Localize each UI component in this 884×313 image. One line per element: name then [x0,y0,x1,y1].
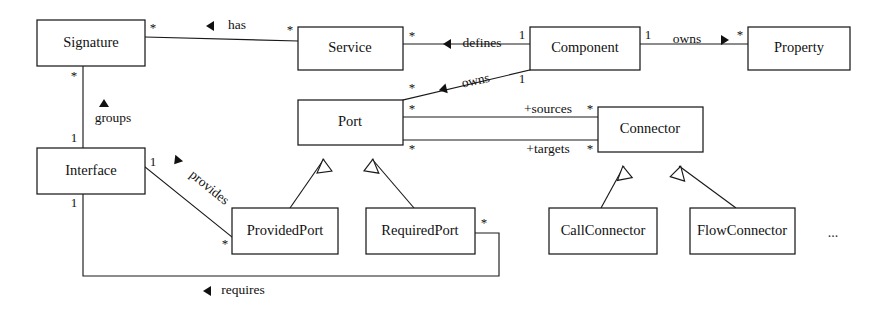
association-label-groups: groups [95,110,132,125]
multiplicity-defines-from: * [409,28,416,43]
class-box-property[interactable]: Property [748,27,850,70]
generalization-line-requiredport-port [372,159,414,208]
multiplicity-sources-to: * [587,101,594,116]
multiplicity-provides-from: 1 [150,154,157,169]
navigation-triangle-owns-port [438,84,448,96]
association-label-has: has [228,17,246,32]
class-label-connector: Connector [620,120,681,136]
class-box-port[interactable]: Port [298,100,403,145]
multiplicity-defines-to: 1 [519,27,526,42]
class-box-component[interactable]: Component [530,27,640,70]
class-box-signature[interactable]: Signature [37,20,145,66]
class-label-requiredport: RequiredPort [381,222,458,238]
diagram-canvas: Signature Service Component Property Por… [0,0,884,313]
association-label-owns-property: owns [673,31,702,46]
class-label-providedport: ProvidedPort [247,222,324,238]
association-label-targets: +targets [526,141,569,156]
class-label-service: Service [328,39,371,55]
multiplicity-owns-port-to: * [409,80,416,95]
multiplicity-targets-from: * [409,141,416,156]
generalization-line-flowconnector-connector [679,166,736,208]
association-label-owns-port: owns [460,70,491,91]
class-box-callconnector[interactable]: CallConnector [549,208,657,254]
multiplicity-targets-to: * [587,141,594,156]
class-box-flowconnector[interactable]: FlowConnector [690,208,795,254]
class-label-signature: Signature [63,34,119,50]
multiplicity-owns-property-from: 1 [645,27,652,42]
association-label-provides: provides [187,167,233,208]
class-box-connector[interactable]: Connector [598,107,703,152]
multiplicity-has-from: * [150,20,157,35]
class-label-interface: Interface [65,162,117,178]
multiplicity-groups-to: * [71,68,78,83]
class-label-component: Component [551,39,619,55]
class-box-service[interactable]: Service [298,27,403,70]
generalization-arrow-providedport-port [315,158,332,173]
uml-class-diagram: Signature Service Component Property Por… [0,0,884,313]
association-label-group-provides: provides [168,152,232,208]
multiplicity-owns-property-to: * [737,27,744,42]
multiplicity-groups-from: 1 [71,130,78,145]
multiplicity-requires-to: * [481,215,488,230]
association-label-defines: defines [463,35,502,50]
navigation-triangle-groups [99,99,109,107]
generalization-line-providedport-port [290,159,324,208]
navigation-triangle-has [206,21,214,31]
association-label-group-owns-port: owns [437,70,491,96]
multiplicity-requires-from: 1 [71,195,78,210]
class-label-callconnector: CallConnector [561,222,646,238]
navigation-triangle-provides [170,155,183,168]
multiplicity-provides-to: * [222,236,229,251]
class-label-port: Port [338,113,362,129]
ellipsis-label: ... [828,225,839,240]
association-label-sources: +sources [524,101,572,116]
class-box-interface[interactable]: Interface [37,148,145,194]
class-box-providedport[interactable]: ProvidedPort [232,208,338,254]
class-box-requiredport[interactable]: RequiredPort [366,208,475,254]
multiplicity-has-to: * [287,22,294,37]
class-label-flowconnector: FlowConnector [697,222,787,238]
class-label-property: Property [774,39,825,55]
multiplicity-sources-from: * [409,101,416,116]
association-line-has [145,37,298,41]
navigation-triangle-requires [203,286,211,296]
navigation-triangle-defines [443,39,451,49]
multiplicity-owns-port-from: 1 [519,71,526,86]
association-label-requires: requires [221,282,264,297]
